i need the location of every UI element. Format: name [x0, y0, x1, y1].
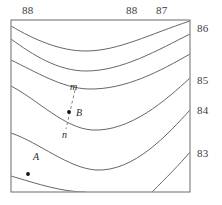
point-B — [67, 110, 71, 114]
annotation-label-A: A — [33, 152, 39, 162]
contour-value-label-right-86: 86 — [197, 23, 208, 34]
annotation-label-m: m — [70, 82, 77, 92]
contour-map-figure: 888887 86858483 mBnA — [0, 0, 222, 205]
contour-value-label-right-85: 85 — [197, 75, 208, 86]
contour-value-label-right-83: 83 — [197, 148, 208, 159]
contour-value-label-top-87: 87 — [156, 5, 167, 16]
plot-frame — [11, 20, 190, 192]
contour-value-label-top-88: 88 — [22, 5, 33, 16]
contour-value-label-right-84: 84 — [197, 105, 208, 116]
point-A — [26, 172, 30, 176]
annotation-label-n: n — [62, 130, 67, 140]
contour-value-label-top-88: 88 — [126, 5, 137, 16]
contour-plot-canvas — [0, 0, 222, 205]
annotation-label-B: B — [76, 108, 82, 118]
